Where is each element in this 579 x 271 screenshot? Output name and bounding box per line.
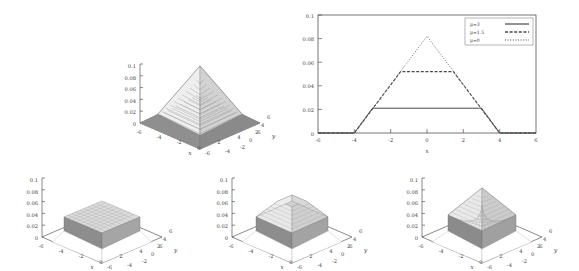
xtick-6: 6 xyxy=(534,137,537,143)
ztick-0.1: 0.1 xyxy=(30,177,38,183)
xtick--6: -6 xyxy=(418,243,423,249)
ytick-4: 4 xyxy=(543,236,547,242)
ytick-0.04: 0.04 xyxy=(302,83,314,89)
xtick--4: -4 xyxy=(248,248,254,254)
y-axis-ticks: 0.1 0.08 0.06 0.04 0.02 0 xyxy=(302,13,314,137)
ytick-0.1: 0.1 xyxy=(306,13,314,19)
xtick--2: -2 xyxy=(458,253,463,259)
x-axis-label: x xyxy=(425,148,429,154)
ytick--4: -4 xyxy=(225,148,231,154)
xtick--6: -6 xyxy=(228,243,233,249)
ztick-0.08: 0.08 xyxy=(216,189,228,195)
z-tick-marks xyxy=(232,178,235,237)
ytick--2: -2 xyxy=(240,144,245,150)
ytick--2: -2 xyxy=(142,258,147,264)
figure-canvas: 0.1 0.08 0.06 0.04 0.02 0 xyxy=(0,0,579,271)
xtick--4: -4 xyxy=(352,137,358,143)
ytick-4: 4 xyxy=(261,122,265,128)
x-axis-ticks: -6 -4 -2 0 2 4 6 xyxy=(315,137,537,143)
ytick-6: 6 xyxy=(169,228,172,234)
xtick-2: 2 xyxy=(462,137,465,143)
ztick-0.06: 0.06 xyxy=(26,200,38,206)
ytick--4: -4 xyxy=(127,262,133,268)
ytick--4: -4 xyxy=(317,262,323,268)
xtick-2: 2 xyxy=(499,253,502,259)
xtick--4: -4 xyxy=(156,134,162,140)
y-axis-label: y xyxy=(271,133,276,140)
legend-label-mu-3: μ=3 xyxy=(470,22,480,27)
ytick-0: 0 xyxy=(311,131,314,137)
ztick-0.04: 0.04 xyxy=(406,212,418,218)
y-axis-label: y xyxy=(553,247,558,254)
xtick-4: 4 xyxy=(519,248,523,254)
ztick-0.08: 0.08 xyxy=(124,75,136,81)
panel-top-right-profile: 0.1 0.08 0.06 0.04 0.02 0 -6 -4 -2 0 2 4… xyxy=(296,8,571,156)
panel-bottom-left-surface: 0.1 0.08 0.06 0.04 0.02 0 xyxy=(6,170,191,268)
xtick--6: -6 xyxy=(315,137,320,143)
xtick--2: -2 xyxy=(388,137,393,143)
legend-label-mu-1.5: μ=1.5 xyxy=(470,30,484,35)
ztick-0.02: 0.02 xyxy=(124,109,136,115)
ytick-6: 6 xyxy=(267,114,270,120)
ytick-4: 4 xyxy=(353,236,357,242)
x-axis-label: x xyxy=(188,150,192,156)
ytick-6: 6 xyxy=(549,228,552,234)
ytick-2: 2 xyxy=(255,129,258,135)
ztick-0.04: 0.04 xyxy=(124,98,136,104)
panel-bottom-right-surface: 0.1 0.08 0.06 0.04 0.02 0 xyxy=(386,170,571,268)
ztick-0.1: 0.1 xyxy=(220,177,228,183)
xtick-2: 2 xyxy=(119,253,122,259)
ztick-0.04: 0.04 xyxy=(216,212,228,218)
ytick--4: -4 xyxy=(507,262,513,268)
ytick-0: 0 xyxy=(249,137,252,143)
ytick--6: -6 xyxy=(297,264,302,270)
z-tick-marks xyxy=(140,64,143,123)
xtick-0: 0 xyxy=(479,259,482,265)
ztick-0: 0 xyxy=(225,235,228,241)
xtick-0: 0 xyxy=(197,145,200,151)
xtick-4: 4 xyxy=(498,137,502,143)
xtick-4: 4 xyxy=(237,134,241,140)
ytick-0.08: 0.08 xyxy=(302,36,314,42)
z-tick-marks xyxy=(422,178,425,237)
xtick--4: -4 xyxy=(58,248,64,254)
ytick-4: 4 xyxy=(163,236,167,242)
panel-bottom-middle-surface: 0.1 0.08 0.06 0.04 0.02 0 xyxy=(196,170,381,268)
bottom-middle-surface-svg: 0.1 0.08 0.06 0.04 0.02 0 xyxy=(196,170,381,268)
ztick-0: 0 xyxy=(133,121,136,127)
ytick-0: 0 xyxy=(151,251,154,257)
legend: μ=3 μ=1.5 μ=0 xyxy=(465,18,533,45)
ytick--6: -6 xyxy=(205,150,210,156)
ztick-0.1: 0.1 xyxy=(128,63,136,69)
ytick-2: 2 xyxy=(537,243,540,249)
z-axis-ticks: 0.1 0.08 0.06 0.04 0.02 0 xyxy=(216,177,228,241)
ytick-2: 2 xyxy=(347,243,350,249)
ztick-0.06: 0.06 xyxy=(406,200,418,206)
xtick-2: 2 xyxy=(217,139,220,145)
xtick-0: 0 xyxy=(99,259,102,265)
ytick-0.02: 0.02 xyxy=(302,107,314,113)
y-axis-label: y xyxy=(363,247,368,254)
y-axis-label: y xyxy=(173,247,178,254)
ytick-6: 6 xyxy=(359,228,362,234)
ztick-0: 0 xyxy=(35,235,38,241)
xtick--2: -2 xyxy=(176,139,181,145)
x-axis-label: x xyxy=(90,264,94,270)
xtick-0: 0 xyxy=(289,259,292,265)
ytick-0: 0 xyxy=(341,251,344,257)
legend-label-mu-0: μ=0 xyxy=(470,38,480,43)
ztick-0.04: 0.04 xyxy=(26,212,38,218)
ztick-0.06: 0.06 xyxy=(216,200,228,206)
ztick-0.02: 0.02 xyxy=(406,223,418,229)
top-left-surface-svg: 0.1 0.08 0.06 0.04 0.02 0 xyxy=(104,56,289,156)
xtick--6: -6 xyxy=(38,243,43,249)
ztick-0.02: 0.02 xyxy=(26,223,38,229)
xtick-2: 2 xyxy=(309,253,312,259)
ztick-0.06: 0.06 xyxy=(124,86,136,92)
xtick-0: 0 xyxy=(425,137,428,143)
xtick--2: -2 xyxy=(268,253,273,259)
xtick--4: -4 xyxy=(438,248,444,254)
ztick-0.08: 0.08 xyxy=(406,189,418,195)
x-axis-label: x xyxy=(470,264,474,270)
z-axis-ticks: 0.1 0.08 0.06 0.04 0.02 0 xyxy=(26,177,38,241)
